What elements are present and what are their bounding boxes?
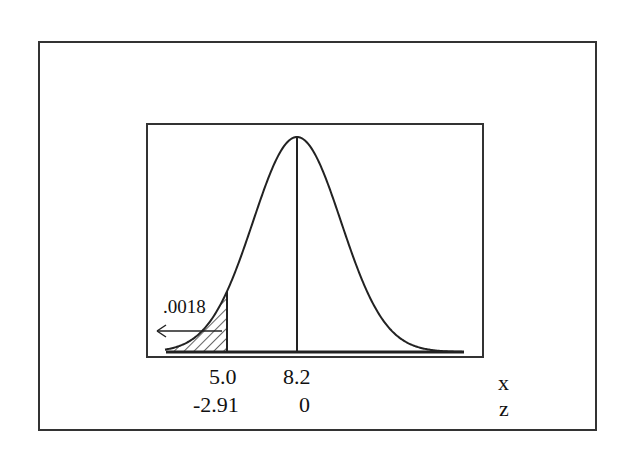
z-axis-label: z (499, 398, 509, 420)
plot-frame (147, 124, 483, 357)
z-tick-cutoff: -2.91 (193, 394, 239, 416)
normal-curve (165, 137, 462, 352)
z-tick-mean: 0 (299, 394, 310, 416)
x-axis-label: x (498, 372, 509, 394)
x-tick-mean: 8.2 (283, 366, 311, 388)
normal-curve-plot (0, 0, 626, 453)
shaded-area-label: .0018 (163, 297, 206, 316)
x-tick-cutoff: 5.0 (209, 366, 237, 388)
